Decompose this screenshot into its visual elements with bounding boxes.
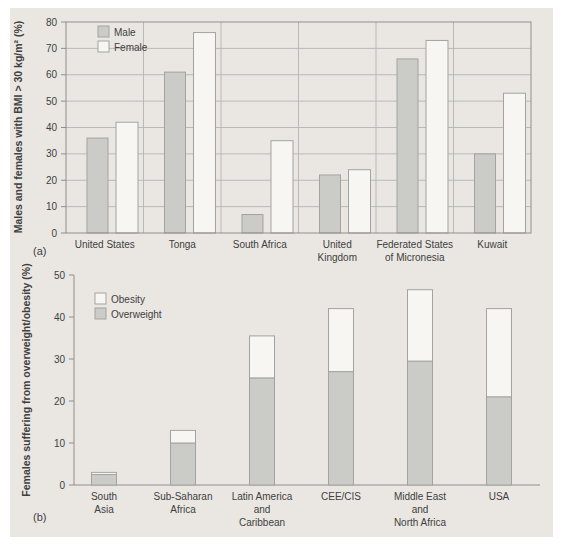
x-category-label-latin-america-and-caribbean: Latin America: [232, 491, 293, 502]
x-category-label-cee-cis: CEE/CIS: [321, 491, 361, 502]
y-tick-label: 80: [46, 17, 58, 28]
bar-overweight-usa: [487, 397, 512, 485]
bar-obesity-latin-america-and-caribbean: [250, 336, 275, 378]
legend-label-female: Female: [114, 42, 148, 53]
bar-overweight-latin-america-and-caribbean: [250, 378, 275, 485]
bar-male-united-kingdom: [320, 175, 341, 233]
legend-swatch-male: [98, 26, 109, 37]
x-category-label-federated-states-of-micronesia: Federated States: [376, 239, 453, 250]
legend-label-obesity: Obesity: [111, 294, 145, 305]
bar-obesity-middle-east-and-north-africa: [408, 290, 433, 361]
legend-swatch-obesity: [95, 293, 106, 304]
bar-obesity-south-asia: [92, 472, 117, 474]
x-category-label-latin-america-and-caribbean: Caribbean: [239, 517, 285, 528]
x-category-label-united-states: United States: [75, 239, 135, 250]
x-category-label-tonga: Tonga: [169, 239, 197, 250]
bar-male-federated-states-of-micronesia: [397, 59, 418, 233]
legend-swatch-female: [98, 41, 109, 52]
y-tick-label: 40: [54, 312, 66, 323]
x-category-label-united-kingdom: Kingdom: [318, 252, 357, 263]
y-tick-label: 50: [46, 96, 58, 107]
y-tick-label: 10: [54, 438, 66, 449]
y-axis-title-b: Females suffering from overweight/obesit…: [20, 263, 32, 496]
bar-obesity-sub-saharan-africa: [171, 430, 196, 443]
x-category-label-middle-east-and-north-africa: North Africa: [394, 517, 447, 528]
bar-male-tonga: [165, 72, 186, 233]
bar-overweight-middle-east-and-north-africa: [408, 361, 433, 485]
bar-male-kuwait: [475, 154, 496, 233]
panel-label-b: (b): [33, 511, 46, 523]
chart-a-content: 01020304050607080United StatesTongaSouth…: [12, 17, 531, 264]
bar-female-tonga: [194, 33, 216, 233]
x-category-label-federated-states-of-micronesia: of Micronesia: [385, 252, 445, 263]
x-category-label-middle-east-and-north-africa: and: [412, 504, 429, 515]
x-category-label-sub-saharan-africa: Africa: [170, 504, 196, 515]
bar-male-united-states: [87, 138, 108, 233]
bar-obesity-cee-cis: [329, 309, 354, 372]
y-tick-label: 60: [46, 69, 58, 80]
y-tick-label: 20: [54, 396, 66, 407]
chart-b-stacked-bar-overweight-obesity: 01020304050SouthAsiaSub-SaharanAfricaLat…: [0, 270, 562, 551]
y-tick-label: 20: [46, 175, 58, 186]
y-tick-label: 10: [46, 201, 58, 212]
y-tick-label: 50: [54, 270, 66, 281]
y-axis-title-a: Males and females with BMI > 30 kg/m² (%…: [12, 21, 24, 234]
y-tick-label: 30: [54, 354, 66, 365]
legend-label-male: Male: [114, 27, 136, 38]
x-category-label-middle-east-and-north-africa: Middle East: [394, 491, 446, 502]
y-tick-label: 0: [51, 228, 57, 239]
x-category-label-sub-saharan-africa: Sub-Saharan: [154, 491, 213, 502]
x-category-label-south-africa: South Africa: [233, 239, 287, 250]
y-tick-label: 70: [46, 43, 58, 54]
bar-overweight-cee-cis: [329, 372, 354, 485]
x-category-label-usa: USA: [489, 491, 510, 502]
chart-a-grouped-bar-bmi: 01020304050607080United StatesTongaSouth…: [0, 0, 562, 270]
panel-label-a: (a): [33, 245, 46, 257]
x-category-label-kuwait: Kuwait: [477, 239, 507, 250]
bar-female-federated-states-of-micronesia: [426, 40, 448, 233]
bar-female-south-africa: [271, 141, 293, 233]
legend-swatch-overweight: [95, 308, 106, 319]
bar-obesity-usa: [487, 309, 512, 397]
legend-label-overweight: Overweight: [111, 309, 162, 320]
bar-female-united-kingdom: [349, 170, 371, 233]
bar-overweight-sub-saharan-africa: [171, 443, 196, 485]
bar-overweight-south-asia: [92, 475, 117, 486]
bar-male-south-africa: [242, 215, 263, 233]
bar-female-united-states: [116, 122, 138, 233]
x-category-label-latin-america-and-caribbean: and: [254, 504, 271, 515]
chart-b-content: 01020304050SouthAsiaSub-SaharanAfricaLat…: [20, 263, 540, 528]
x-category-label-south-asia: Asia: [94, 504, 114, 515]
y-tick-label: 30: [46, 148, 58, 159]
x-category-label-united-kingdom: United: [323, 239, 352, 250]
y-tick-label: 0: [59, 480, 65, 491]
bar-female-kuwait: [504, 93, 526, 233]
y-tick-label: 40: [46, 122, 58, 133]
x-category-label-south-asia: South: [91, 491, 117, 502]
